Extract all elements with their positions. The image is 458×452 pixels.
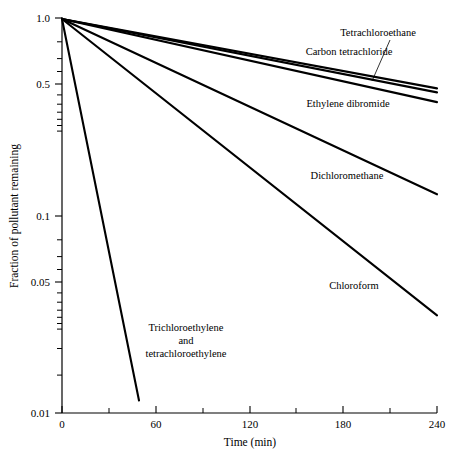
y-tick-label-4: 0.05 bbox=[31, 276, 51, 288]
y-tick-label-1: 1.0 bbox=[36, 12, 50, 24]
y-tick-label-2: 0.5 bbox=[36, 78, 50, 90]
series-label-dichloromethane: Dichloromethane bbox=[311, 170, 384, 181]
chart-figure: 1.0 0.5 0.1 0.05 0.01 0 60 120 180 240 T… bbox=[0, 0, 458, 452]
x-axis-title: Time (min) bbox=[224, 436, 276, 449]
y-tick-label-5: 0.01 bbox=[31, 407, 50, 419]
series-label-trichloroethylene-line3: tetrachloroethylene bbox=[145, 348, 226, 359]
series-label-carbon-tetrachloride: Carbon tetrachloride bbox=[306, 46, 393, 57]
y-tick-label-3: 0.1 bbox=[36, 210, 50, 222]
x-tick-label-2: 60 bbox=[151, 418, 163, 430]
x-tick-label-4: 180 bbox=[335, 418, 352, 430]
y-axis-title: Fraction of pollutant remaining bbox=[8, 144, 21, 288]
series-label-trichloroethylene-line1: Trichloroethylene bbox=[149, 322, 224, 333]
series-label-trichloroethylene-line2: and bbox=[178, 335, 194, 346]
series-label-tetrachloroethane: Tetrachloroethane bbox=[340, 27, 416, 38]
series-label-chloroform: Chloroform bbox=[329, 280, 379, 291]
chart-background bbox=[0, 0, 458, 452]
series-label-ethylene-dibromide: Ethylene dibromide bbox=[306, 98, 389, 109]
pollutant-decay-chart: 1.0 0.5 0.1 0.05 0.01 0 60 120 180 240 T… bbox=[0, 0, 458, 452]
x-tick-label-5: 240 bbox=[429, 418, 446, 430]
x-tick-label-3: 120 bbox=[242, 418, 259, 430]
x-tick-label-1: 0 bbox=[59, 418, 65, 430]
